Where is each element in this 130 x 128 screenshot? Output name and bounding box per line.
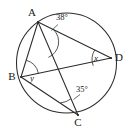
vertex-label-d: D [115,51,123,63]
geometry-canvas: A B C D 38° x y 35° [0,0,130,128]
chord-ba [21,22,38,77]
angle-label-d: x [93,53,98,63]
vertex-dot-a [37,21,39,23]
vertex-label-c: C [74,116,81,128]
vertex-label-b: B [8,70,15,82]
angle-label-b: y [29,73,34,83]
angle-arc-a [48,30,58,58]
geometry-figure: A B C D 38° x y 35° [0,0,130,128]
vertex-dot-d [110,57,112,59]
angle-arc-b [26,60,38,73]
angle-leader-c [74,95,81,100]
angle-label-c: 35° [76,84,88,94]
angle-leader-a [52,25,59,31]
chord-ad [38,22,111,58]
angle-arc-c [61,99,71,103]
angle-label-a: 38° [56,12,68,22]
vertex-dot-b [20,76,22,78]
vertex-label-a: A [28,6,36,18]
